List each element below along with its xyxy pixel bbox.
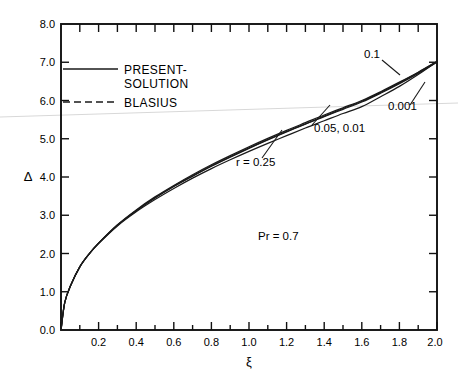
data-curve (61, 61, 437, 330)
x-tick-label: 1.4 (317, 336, 332, 348)
chart-canvas: 8.0 7.0 6.0 5.0 4.0 3.0 2.0 1.0 0.0 0.2 … (0, 0, 458, 376)
chart-figure: 8.0 7.0 6.0 5.0 4.0 3.0 2.0 1.0 0.0 0.2 … (0, 0, 458, 376)
leader-line-0p1 (382, 60, 400, 75)
x-tick-label: 1.0 (241, 336, 256, 348)
axes-border (61, 24, 437, 330)
x-tick-label: 0.6 (166, 336, 181, 348)
y-tick-label: 3.0 (40, 209, 55, 221)
curve-label-0p1: 0.1 (364, 48, 380, 60)
y-axis-ticks-right (429, 62, 437, 292)
x-tick-label: 0.8 (204, 336, 219, 348)
x-tick-label: 2.0 (427, 336, 442, 348)
legend-label-present-solution-line2: SOLUTION (124, 77, 189, 91)
y-tick-label: 8.0 (40, 18, 55, 30)
legend-label-present-solution-line1: PRESENT- (124, 63, 187, 77)
data-curve (61, 62, 437, 330)
x-tick-label: 1.2 (279, 336, 294, 348)
x-axis-ticks-top (80, 24, 418, 32)
y-tick-label: 6.0 (40, 95, 55, 107)
curve-label-r025: r = 0.25 (236, 156, 275, 168)
y-axis-title: Δ (24, 169, 33, 184)
x-tick-label: 0.4 (129, 336, 144, 348)
y-axis-tick-labels: 8.0 7.0 6.0 5.0 4.0 3.0 2.0 1.0 0.0 (40, 18, 55, 336)
plot-frame (61, 24, 437, 330)
data-curve (61, 61, 437, 330)
x-axis-title: ξ (246, 354, 252, 369)
x-axis-ticks-bottom (61, 322, 437, 330)
x-tick-label: 1.6 (354, 336, 369, 348)
data-curves (61, 61, 437, 330)
x-tick-label: 0.2 (91, 336, 106, 348)
data-curve (61, 61, 437, 330)
x-axis-tick-labels: 0.2 0.4 0.6 0.8 1.0 1.2 1.4 1.6 1.8 2.0 (91, 336, 443, 348)
curve-label-0p001: 0.001 (388, 100, 417, 112)
y-tick-label: 2.0 (40, 248, 55, 260)
y-tick-label: 5.0 (40, 133, 55, 145)
legend: PRESENT- SOLUTION BLASIUS (63, 63, 189, 110)
y-tick-label: 7.0 (40, 56, 55, 68)
y-tick-label: 0.0 (40, 324, 55, 336)
y-tick-label: 1.0 (40, 286, 55, 298)
curve-label-0p05-0p01: 0.05, 0.01 (314, 122, 365, 134)
x-tick-label: 1.8 (392, 336, 407, 348)
y-tick-label: 4.0 (40, 171, 55, 183)
prandtl-number-note: Pr = 0.7 (258, 230, 299, 242)
legend-label-blasius: BLASIUS (124, 96, 178, 110)
y-axis-ticks-left (61, 62, 69, 292)
